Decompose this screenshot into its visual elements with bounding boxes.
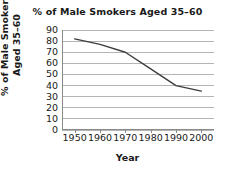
- y-tick-label: 60: [34, 58, 58, 68]
- y-axis-title-line-2: Aged 35–60: [11, 0, 23, 100]
- y-axis-title: % of Male Smokers Aged 35–60: [0, 0, 23, 100]
- x-axis-title: Year: [40, 152, 215, 163]
- plot-area: [62, 30, 214, 130]
- chart-title: % of Male Smokers Aged 35–60: [0, 6, 235, 17]
- y-tick-label: 20: [34, 103, 58, 113]
- x-tick-label: 2000: [186, 133, 216, 143]
- y-tick-label: 70: [34, 47, 58, 57]
- y-tick-label: 40: [34, 81, 58, 91]
- y-tick-label: 80: [34, 36, 58, 46]
- y-tick-label: 50: [34, 69, 58, 79]
- y-axis-title-line-1: % of Male Smokers: [0, 0, 11, 100]
- x-axis-tick-labels: 195019601970198019902000: [62, 133, 222, 147]
- data-line-series: [75, 39, 202, 91]
- y-tick-label: 30: [34, 92, 58, 102]
- chart-figure: % of Male Smokers Aged 35–60 % of Male S…: [0, 0, 235, 175]
- data-line-svg: [62, 30, 214, 130]
- y-tick-label: 0: [34, 125, 58, 135]
- y-axis-tick-labels: 9080706050403020100: [34, 30, 58, 130]
- y-tick-label: 10: [34, 114, 58, 124]
- y-tick-label: 90: [34, 25, 58, 35]
